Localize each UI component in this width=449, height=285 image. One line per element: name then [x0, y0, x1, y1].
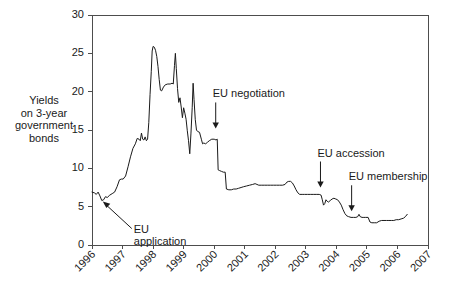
y-tick-label: 25: [72, 46, 84, 58]
series-line: [92, 46, 407, 222]
x-tick-label: 2001: [224, 248, 250, 274]
x-tick-label: 2002: [255, 248, 281, 274]
x-tick-label: 1996: [72, 248, 98, 274]
annotation-arrow-line: [106, 205, 132, 229]
y-tick-label: 20: [72, 85, 84, 97]
y-tick-label: 15: [72, 123, 84, 135]
x-tick-label: 2003: [285, 248, 311, 274]
y-axis-ticks: 051015202530: [72, 8, 92, 250]
x-tick-label: 1999: [163, 248, 189, 274]
axis-frame: [92, 15, 428, 245]
annotations-layer: EUapplicationEU negotiationEU accessionE…: [103, 87, 428, 247]
x-tick-label: 1998: [133, 248, 159, 274]
y-axis-title: Yieldson 3-yeargovernmentbonds: [15, 94, 73, 144]
x-tick-label: 2000: [194, 248, 220, 274]
annotation-label: EU membership: [349, 170, 428, 182]
annotation-arrow-head: [213, 122, 219, 128]
annotation-label: EU: [134, 223, 149, 235]
y-axis-title-line: government: [15, 119, 73, 131]
series-layer: [92, 46, 407, 222]
y-tick-label: 10: [72, 161, 84, 173]
x-tick-label: 1997: [102, 248, 128, 274]
y-axis-title-line: Yields: [29, 94, 59, 106]
annotation-label: application: [134, 235, 187, 247]
y-tick-label: 30: [72, 8, 84, 20]
annotation-arrow-head: [317, 182, 323, 188]
y-axis-title-line: on 3-year: [21, 107, 68, 119]
x-tick-label: 2006: [377, 248, 403, 274]
annotation-eu-application: EUapplication: [103, 202, 187, 248]
x-tick-label: 2007: [408, 248, 434, 274]
yields-line-chart: Yieldson 3-yeargovernmentbonds 051015202…: [0, 0, 449, 285]
chart-figure: Yieldson 3-yeargovernmentbonds 051015202…: [0, 0, 449, 285]
annotation-label: EU accession: [317, 147, 384, 159]
y-tick-label: 0: [78, 238, 84, 250]
x-tick-label: 2004: [316, 248, 342, 274]
y-tick-label: 5: [78, 200, 84, 212]
annotation-label: EU negotiation: [213, 87, 285, 99]
y-axis-title-line: bonds: [29, 132, 59, 144]
annotation-eu-negotiation: EU negotiation: [213, 87, 285, 128]
annotation-arrow-head: [348, 205, 354, 211]
plot-border: [92, 15, 428, 245]
x-axis-ticks: 1996199719981999200020012002200320042005…: [72, 245, 434, 274]
annotation-eu-membership: EU membership: [348, 170, 427, 211]
x-tick-label: 2005: [347, 248, 373, 274]
